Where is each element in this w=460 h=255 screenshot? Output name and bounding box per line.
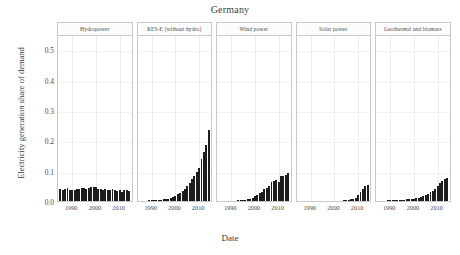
x-axis-ticks: 199020002010: [216, 204, 292, 216]
panel-label: Solar power: [296, 22, 372, 36]
x-tick-label: 1990: [224, 204, 237, 211]
gridline-vertical: [311, 36, 312, 201]
y-axis-label: Electricity generation share of demand: [16, 18, 26, 208]
plot-area: [296, 36, 372, 202]
gridline-vertical: [390, 36, 391, 201]
plot-area: [137, 36, 213, 202]
x-tick-label: 2000: [248, 204, 261, 211]
x-tick-label: 2000: [89, 204, 102, 211]
x-tick-label: 2010: [430, 204, 443, 211]
gridline-vertical: [358, 36, 359, 201]
facet-panel: Solar power: [296, 22, 372, 202]
x-tick-label: 2010: [351, 204, 364, 211]
x-tick-label: 1990: [144, 204, 157, 211]
gridline-vertical: [255, 36, 256, 201]
y-tick-label: 0.4: [45, 76, 54, 85]
x-axis-ticks: 199020002010: [137, 204, 213, 216]
gridline-vertical: [438, 36, 439, 201]
gridline-vertical: [152, 36, 153, 201]
plot-area: [57, 36, 133, 202]
gridline-vertical: [120, 36, 121, 201]
facet-panel: Hydropower: [57, 22, 133, 202]
panel-label: RES-E (without hydro): [137, 22, 213, 36]
x-tick-label: 2010: [271, 204, 284, 211]
gridline-vertical: [72, 36, 73, 201]
x-tick-label: 2010: [192, 204, 205, 211]
y-tick-label: 0.2: [45, 137, 54, 146]
x-tick-label: 2000: [168, 204, 181, 211]
gridline-vertical: [175, 36, 176, 201]
x-tick-label: 2000: [327, 204, 340, 211]
bar: [208, 130, 210, 201]
x-axis-label: Date: [0, 233, 460, 243]
x-tick-label: 1990: [65, 204, 78, 211]
x-tick-label: 1990: [383, 204, 396, 211]
y-axis-ticks: 0.00.10.20.30.40.5: [28, 28, 54, 202]
y-tick-label: 0.3: [45, 106, 54, 115]
x-tick-label: 2010: [112, 204, 125, 211]
bar: [287, 173, 289, 201]
facet-panel: Wind power: [216, 22, 292, 202]
chart-figure: Germany Electricity generation share of …: [0, 0, 460, 255]
x-axis-ticks: 199020002010: [57, 204, 133, 216]
facet-panel: RES-E (without hydro): [137, 22, 213, 202]
gridline-vertical: [334, 36, 335, 201]
gridline-vertical: [96, 36, 97, 201]
panel-row: HydropowerRES-E (without hydro)Wind powe…: [57, 22, 451, 202]
x-tick-label: 1990: [303, 204, 316, 211]
bar: [128, 191, 130, 201]
x-tick-label: 2000: [407, 204, 420, 211]
x-axis-ticks: 199020002010: [375, 204, 451, 216]
y-tick-label: 0.0: [45, 198, 54, 207]
plot-area: [216, 36, 292, 202]
chart-title: Germany: [0, 4, 460, 15]
gridline-vertical: [414, 36, 415, 201]
y-tick-label: 0.5: [45, 46, 54, 55]
y-tick-label: 0.1: [45, 167, 54, 176]
plot-area: [375, 36, 451, 202]
panel-label: Hydropower: [57, 22, 133, 36]
panel-label: Geothermal and biomass: [375, 22, 451, 36]
x-axis-ticks: 199020002010: [296, 204, 372, 216]
bar: [446, 178, 448, 201]
bar: [367, 185, 369, 201]
facet-panel: Geothermal and biomass: [375, 22, 451, 202]
gridline-vertical: [231, 36, 232, 201]
panel-label: Wind power: [216, 22, 292, 36]
